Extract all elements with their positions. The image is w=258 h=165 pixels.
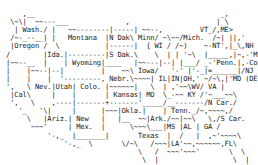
ascii-us-map: ,__ _, \~\| ~~---___ , | \ | Wash./ | ~~… bbox=[2, 2, 258, 165]
